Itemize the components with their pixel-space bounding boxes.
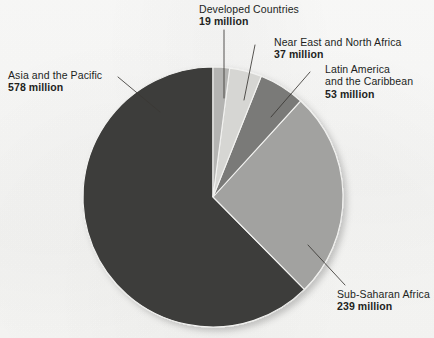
slice-label-near-east-and-north-africa: Near East and North Africa 37 million	[274, 36, 402, 61]
slice-label-name: Asia and the Pacific	[8, 69, 102, 81]
slice-label-name: Sub-Saharan Africa	[337, 288, 430, 300]
slice-label-value: 53 million	[325, 88, 413, 100]
slice-label-value: 19 million	[199, 15, 299, 27]
slice-label-name: Developed Countries	[199, 3, 299, 15]
slice-label-sub-saharan-africa: Sub-Saharan Africa 239 million	[337, 288, 430, 313]
pie-chart-figure: Developed Countries 19 million Near East…	[0, 0, 434, 338]
slice-label-value: 239 million	[337, 300, 430, 312]
slice-label-value: 578 million	[8, 81, 102, 93]
slice-label-value: 37 million	[274, 48, 402, 60]
pie-slices-group	[83, 67, 343, 327]
slice-label-name-line1: Latin America	[325, 63, 413, 75]
slice-label-name-line2: and the Caribbean	[325, 75, 413, 87]
slice-label-asia-and-the-pacific: Asia and the Pacific 578 million	[8, 69, 102, 94]
slice-label-developed-countries: Developed Countries 19 million	[199, 3, 299, 28]
slice-label-latin-america-and-the-caribbean: Latin America and the Caribbean 53 milli…	[325, 63, 413, 100]
slice-label-name: Near East and North Africa	[274, 36, 402, 48]
